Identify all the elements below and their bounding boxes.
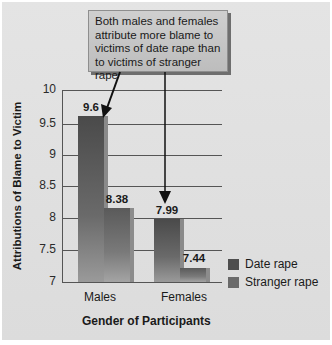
- legend-swatch: [228, 259, 239, 270]
- legend-label: Date rape: [245, 257, 298, 271]
- legend-swatch: [228, 277, 239, 288]
- legend-item-stranger-rape: Stranger rape: [228, 273, 318, 291]
- legend-label: Stranger rape: [245, 275, 318, 289]
- legend: Date rape Stranger rape: [228, 255, 318, 291]
- x-category-label: Males: [84, 290, 116, 304]
- x-axis-label: Gender of Participants: [82, 314, 211, 328]
- x-category-label: Females: [161, 290, 207, 304]
- legend-item-date-rape: Date rape: [228, 255, 318, 273]
